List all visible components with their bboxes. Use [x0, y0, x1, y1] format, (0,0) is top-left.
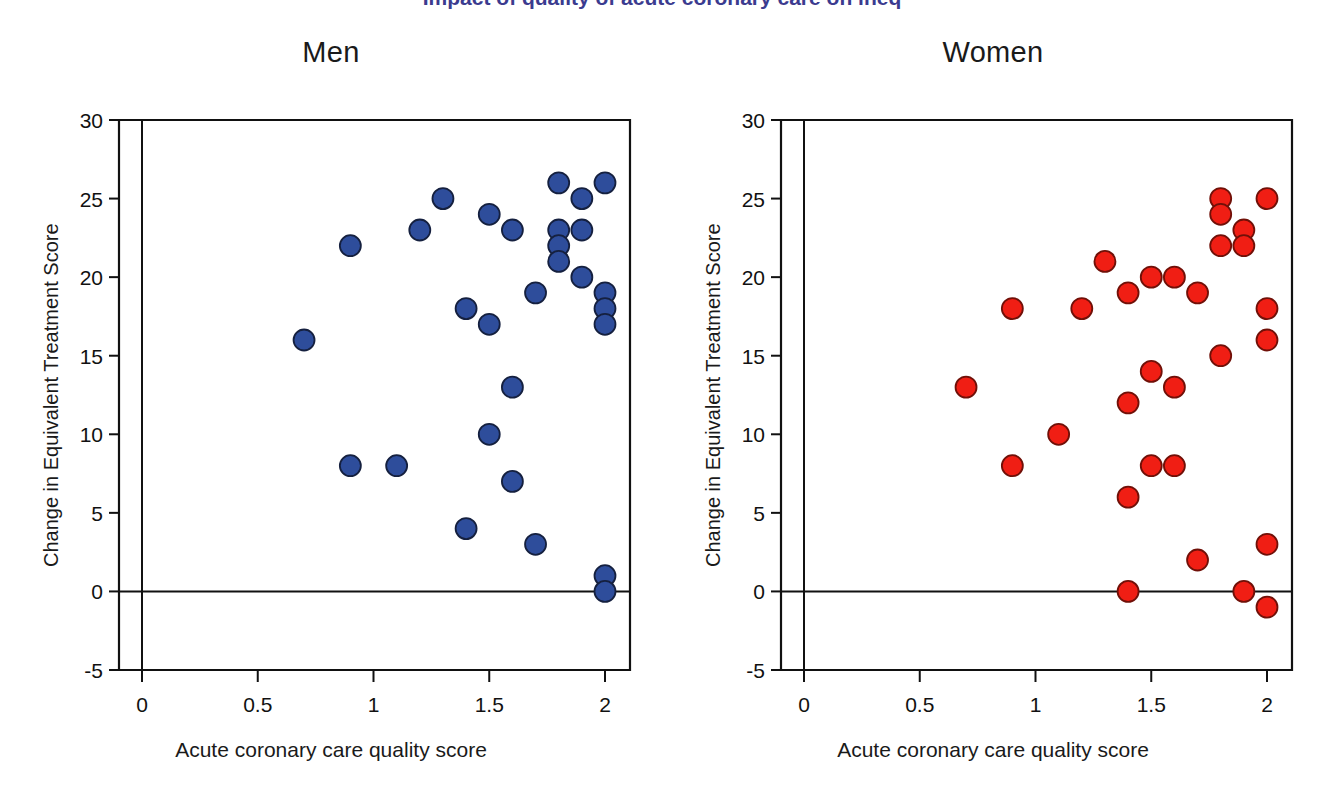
- data-point: [1141, 455, 1162, 476]
- data-point: [386, 455, 407, 476]
- data-point: [456, 298, 477, 319]
- data-point: [571, 188, 592, 209]
- y-tick-label: 15: [742, 345, 765, 368]
- x-tick-label: 2: [1261, 693, 1273, 716]
- data-point: [432, 188, 453, 209]
- data-point: [502, 471, 523, 492]
- data-point: [1118, 581, 1139, 602]
- x-tick-label: 0: [798, 693, 810, 716]
- data-point: [409, 220, 430, 241]
- data-point: [548, 172, 569, 193]
- x-tick-label: 1: [1030, 693, 1042, 716]
- y-tick-label: -5: [746, 659, 765, 682]
- data-point: [1141, 361, 1162, 382]
- data-point: [1187, 550, 1208, 571]
- data-point: [1257, 188, 1278, 209]
- data-point: [340, 235, 361, 256]
- data-point-group: [956, 188, 1278, 618]
- data-point: [1071, 298, 1092, 319]
- data-point: [1164, 455, 1185, 476]
- data-point: [1233, 581, 1254, 602]
- data-point: [479, 424, 500, 445]
- data-point: [1141, 267, 1162, 288]
- data-point: [1187, 282, 1208, 303]
- y-tick-label: 15: [80, 345, 103, 368]
- data-point: [502, 377, 523, 398]
- y-tick-label: 0: [91, 580, 103, 603]
- data-point: [1048, 424, 1069, 445]
- data-point: [1164, 377, 1185, 398]
- x-tick-label: 0.5: [905, 693, 934, 716]
- scatter-plot-women: -505101520253000.511.52: [662, 0, 1324, 730]
- y-tick-label: 25: [742, 188, 765, 211]
- y-tick-label: 10: [742, 423, 765, 446]
- data-point: [1233, 235, 1254, 256]
- y-tick-label: -5: [84, 659, 103, 682]
- y-tick-label: 10: [80, 423, 103, 446]
- x-tick-label: 1: [368, 693, 380, 716]
- data-point: [340, 455, 361, 476]
- x-axis-title-women: Acute coronary care quality score: [662, 738, 1324, 762]
- data-point: [1257, 330, 1278, 351]
- data-point: [1002, 298, 1023, 319]
- y-tick-label: 5: [91, 502, 103, 525]
- data-point: [1094, 251, 1115, 272]
- panel-men: Men Change in Equivalent Treatment Score…: [0, 0, 662, 800]
- data-point: [1257, 298, 1278, 319]
- data-point: [1118, 487, 1139, 508]
- x-tick-label: 0: [136, 693, 148, 716]
- scatter-plot-men: -505101520253000.511.52: [0, 0, 662, 730]
- data-point: [294, 330, 315, 351]
- data-point: [595, 314, 616, 335]
- data-point: [571, 220, 592, 241]
- data-point: [1118, 392, 1139, 413]
- data-point: [1210, 235, 1231, 256]
- data-point: [1164, 267, 1185, 288]
- x-tick-label: 2: [599, 693, 611, 716]
- x-tick-label: 1.5: [475, 693, 504, 716]
- x-axis-title-men: Acute coronary care quality score: [0, 738, 662, 762]
- data-point: [525, 534, 546, 555]
- data-point: [1210, 345, 1231, 366]
- data-point: [502, 220, 523, 241]
- y-tick-label: 20: [742, 266, 765, 289]
- data-point: [479, 204, 500, 225]
- data-point: [956, 377, 977, 398]
- plot-frame: [119, 120, 630, 670]
- figure-root: Impact of quality of acute coronary care…: [0, 0, 1324, 800]
- data-point: [1257, 534, 1278, 555]
- data-point: [1257, 597, 1278, 618]
- data-point: [525, 282, 546, 303]
- data-point: [1118, 282, 1139, 303]
- panel-women: Women Change in Equivalent Treatment Sco…: [662, 0, 1324, 800]
- y-tick-label: 30: [742, 109, 765, 132]
- data-point: [456, 518, 477, 539]
- x-tick-label: 1.5: [1137, 693, 1166, 716]
- y-tick-label: 30: [80, 109, 103, 132]
- data-point: [1210, 204, 1231, 225]
- x-tick-label: 0.5: [243, 693, 272, 716]
- y-tick-label: 0: [753, 580, 765, 603]
- data-point: [595, 581, 616, 602]
- data-point: [548, 251, 569, 272]
- y-tick-label: 5: [753, 502, 765, 525]
- data-point: [595, 172, 616, 193]
- data-point: [479, 314, 500, 335]
- y-tick-label: 20: [80, 266, 103, 289]
- y-tick-label: 25: [80, 188, 103, 211]
- data-point: [571, 267, 592, 288]
- data-point: [1002, 455, 1023, 476]
- data-point-group: [294, 172, 616, 602]
